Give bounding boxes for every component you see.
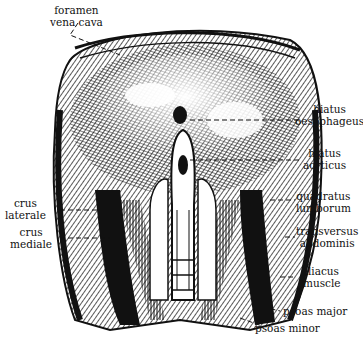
label-transversus-abdominis: transversus abdominis: [296, 225, 358, 249]
label-text: mediale: [10, 238, 52, 250]
label-hiatus-aorticus: hiatus aorticus: [303, 147, 346, 171]
label-crus-mediale: crus mediale: [10, 226, 52, 250]
label-text: foramen: [50, 4, 103, 16]
label-text: crus: [5, 197, 46, 209]
label-psoas-major: psoas major: [283, 305, 347, 317]
label-text: hiatus: [303, 147, 346, 159]
label-foramen-vena-cava: foramen vena cava: [50, 4, 103, 28]
label-crus-laterale: crus laterale: [5, 197, 46, 221]
label-text: psoas minor: [255, 322, 320, 334]
label-iliacus-muscle: iliacus muscle: [303, 265, 341, 289]
label-text: transversus: [296, 225, 358, 237]
label-text: laterale: [5, 209, 46, 221]
label-text: aorticus: [303, 159, 346, 171]
label-text: psoas major: [283, 305, 347, 317]
label-text: muscle: [303, 277, 341, 289]
diaphragm-figure: foramen vena cava hiatus oesophageus hia…: [0, 0, 363, 340]
label-psoas-minor: psoas minor: [255, 322, 320, 334]
label-hiatus-oesophageus: hiatus oesophageus: [295, 103, 363, 127]
label-text: quadratus: [296, 190, 351, 202]
label-text: abdominis: [296, 237, 358, 249]
label-text: hiatus: [295, 103, 363, 115]
label-text: oesophageus: [295, 115, 363, 127]
label-text: vena cava: [50, 16, 103, 28]
label-text: crus: [10, 226, 52, 238]
label-quadratus-lumborum: quadratus lumborum: [296, 190, 351, 214]
label-text: iliacus: [303, 265, 341, 277]
label-text: lumborum: [296, 202, 351, 214]
